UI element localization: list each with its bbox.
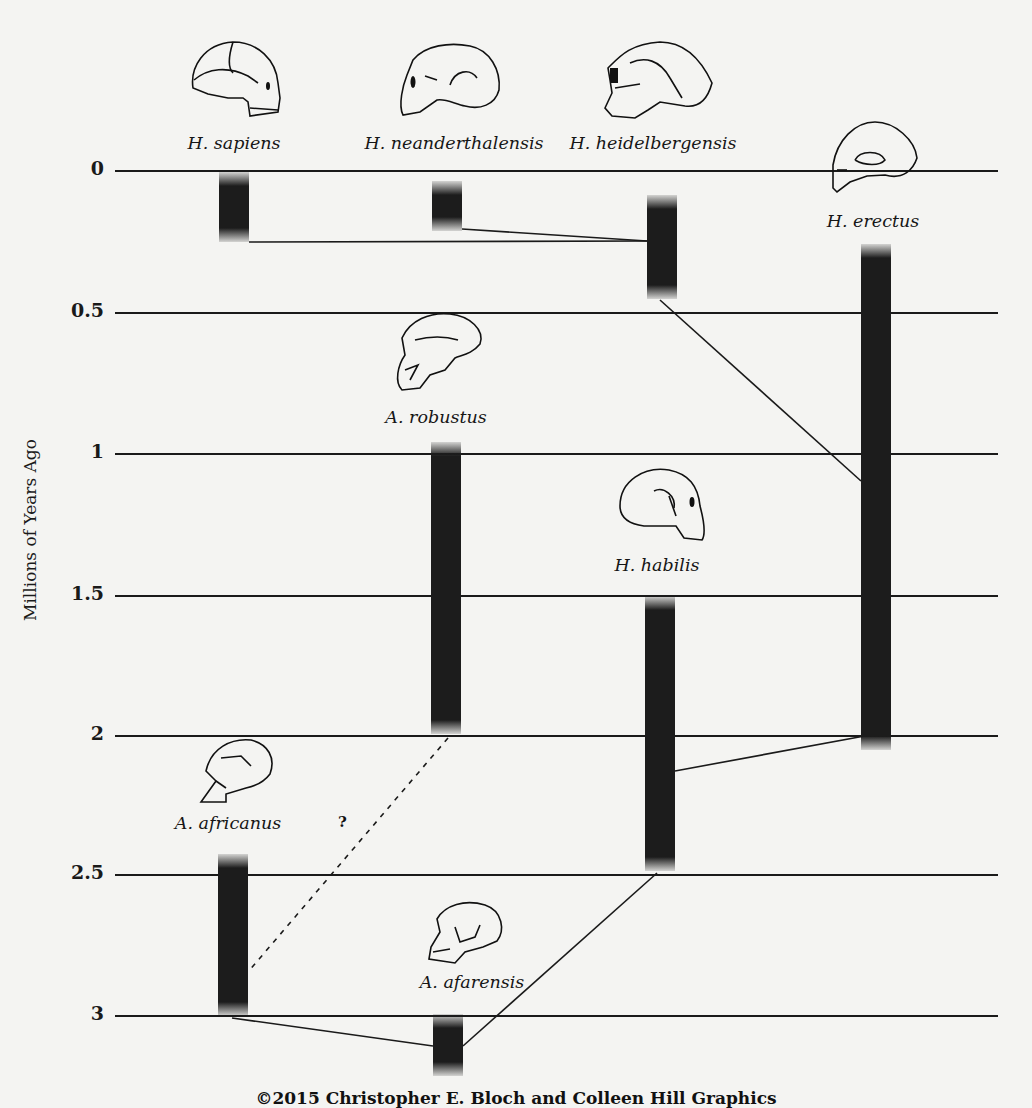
label-h-erectus: H. erectus (827, 211, 920, 231)
skull-h-neanderthalensis-icon (395, 40, 505, 122)
bar-h-neanderthalensis (432, 181, 462, 231)
skull-h-erectus-icon (825, 120, 920, 200)
label-a-robustus: A. robustus (385, 407, 486, 427)
link-africanus-afarensis (232, 1018, 433, 1046)
bar-h-habilis (645, 596, 675, 871)
skull-a-africanus-icon (196, 736, 278, 806)
bar-h-erectus (861, 244, 891, 750)
skull-a-afarensis-icon (425, 897, 507, 967)
uncertain-link-marker: ? (338, 813, 347, 831)
skull-a-robustus-icon (390, 310, 485, 400)
link-sapiens-heidelbergensis (249, 241, 647, 242)
bar-a-robustus (431, 442, 461, 734)
label-a-africanus: A. africanus (175, 813, 281, 833)
link-heidelbergensis-erectus (660, 300, 861, 481)
label-h-heidelbergensis: H. heidelbergensis (569, 133, 736, 153)
link-erectus-habilis (675, 735, 870, 771)
label-a-afarensis: A. afarensis (420, 972, 525, 992)
label-h-habilis: H. habilis (614, 555, 699, 575)
copyright-text: ©2015 Christopher E. Bloch and Colleen H… (255, 1088, 776, 1108)
label-h-sapiens: H. sapiens (187, 133, 280, 153)
skull-h-heidelbergensis-icon (600, 38, 715, 120)
link-robustus-africanus-dashed (248, 738, 448, 972)
bar-h-heidelbergensis (647, 195, 677, 299)
bar-a-afarensis (433, 1014, 463, 1076)
link-neanderthalensis-heidelbergensis (462, 229, 647, 241)
skull-h-habilis-icon (614, 466, 709, 546)
bar-h-sapiens (219, 172, 249, 242)
bar-a-africanus (218, 854, 248, 1016)
skull-h-sapiens-icon (188, 38, 283, 120)
label-h-neanderthalensis: H. neanderthalensis (364, 133, 543, 153)
